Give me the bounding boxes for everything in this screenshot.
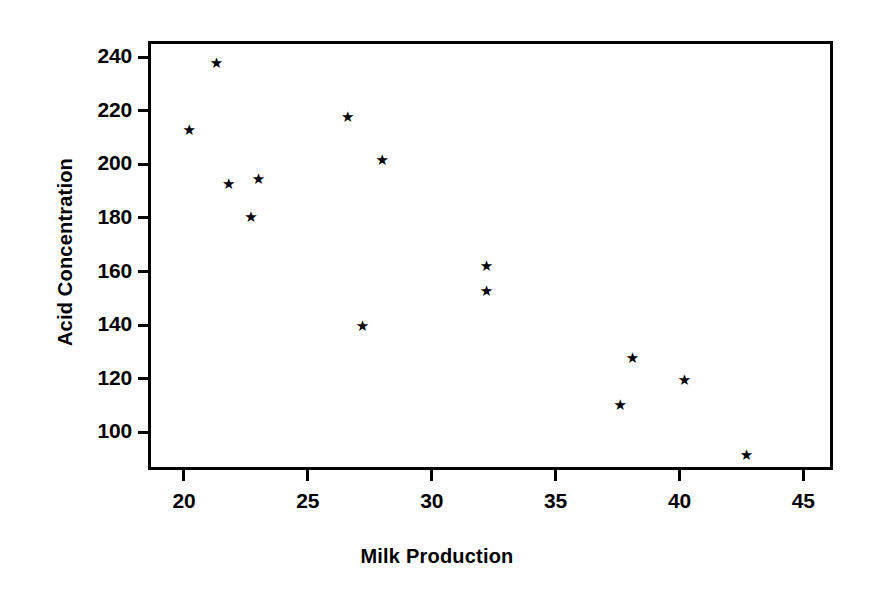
y-tick-mark: [138, 163, 151, 166]
x-tick-label: 30: [402, 489, 462, 513]
y-tick-mark: [138, 56, 151, 59]
x-tick-mark: [430, 468, 433, 481]
x-tick-mark: [554, 468, 557, 481]
y-tick-mark: [138, 109, 151, 112]
scatter-plot-figure: 100120140160180200220240 202530354045 ★★…: [0, 0, 874, 600]
x-tick-label: 40: [649, 489, 709, 513]
x-tick-mark: [182, 468, 185, 481]
y-tick-label: 200: [98, 151, 132, 175]
x-tick-label: 25: [278, 489, 338, 513]
y-tick-mark: [138, 270, 151, 273]
x-tick-label: 20: [154, 489, 214, 513]
y-tick-mark: [138, 216, 151, 219]
x-tick-label: 35: [526, 489, 586, 513]
y-tick-label: 140: [98, 312, 132, 336]
y-tick-label: 220: [98, 98, 132, 122]
y-tick-label: 240: [98, 44, 132, 68]
y-axis-title: Acid Concentration: [50, 37, 80, 467]
x-tick-mark: [678, 468, 681, 481]
y-tick-label: 160: [98, 259, 132, 283]
y-axis-title-wrapper: Acid Concentration: [50, 37, 80, 467]
x-tick-mark: [802, 468, 805, 481]
y-tick-label: 180: [98, 205, 132, 229]
x-tick-mark: [306, 468, 309, 481]
plot-area-frame: [148, 41, 833, 470]
x-axis-title: Milk Production: [0, 545, 874, 568]
x-tick-label: 45: [773, 489, 833, 513]
y-tick-mark: [138, 324, 151, 327]
y-tick-label: 100: [98, 419, 132, 443]
y-tick-mark: [138, 377, 151, 380]
y-tick-mark: [138, 431, 151, 434]
y-tick-label: 120: [98, 366, 132, 390]
